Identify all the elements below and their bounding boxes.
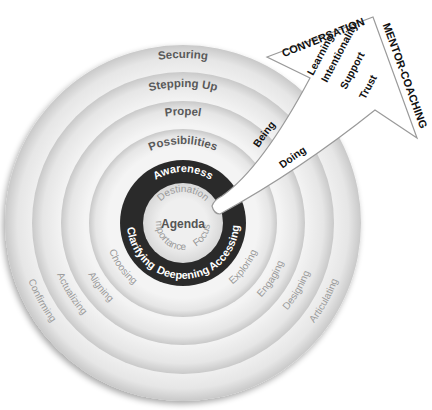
label-agenda: Agenda xyxy=(161,217,205,231)
coaching-diagram: Securing Stepping Up Propel Possibilitie… xyxy=(0,0,432,410)
label-propel: Propel xyxy=(164,105,202,118)
label-securing: Securing xyxy=(157,48,209,62)
